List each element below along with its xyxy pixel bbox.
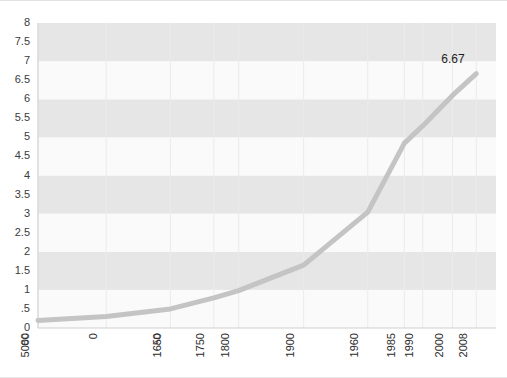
x-tick-label: 1985 — [386, 333, 398, 357]
y-tick-label: 6.5 — [0, 74, 30, 85]
chart-frame: 87.576.565.554.543.532.521.51.50 5000BC0… — [0, 0, 507, 378]
y-tick-label: 0 — [0, 322, 30, 333]
x-tick-label-era: BC — [20, 333, 32, 346]
x-tick-label: 1990 — [404, 333, 416, 357]
y-tick-label: 3 — [0, 208, 30, 219]
y-tick-label: 2.5 — [0, 227, 30, 238]
x-tick-label: 2000 — [434, 333, 446, 357]
y-tick-label: 7.5 — [0, 36, 30, 47]
y-tick-label: 5 — [0, 131, 30, 142]
y-tick-label: 3.5 — [0, 189, 30, 200]
x-tick-label: 1750 — [195, 333, 207, 357]
y-tick-label: 6 — [0, 93, 30, 104]
population-line-chart — [0, 1, 507, 378]
x-tick-label: 1900 — [285, 333, 297, 357]
y-tick-label: 4.5 — [0, 150, 30, 161]
y-tick-label: 8 — [0, 17, 30, 28]
x-tick-label: 1800 — [220, 333, 232, 357]
y-tick-label: 7 — [0, 55, 30, 66]
data-point-label: 6.67 — [441, 52, 464, 66]
y-tick-label: 1 — [0, 284, 30, 295]
y-tick-label: 4 — [0, 170, 30, 181]
x-tick-label: 0 — [88, 333, 100, 339]
y-tick-label: .5 — [0, 303, 30, 314]
x-tick-label: 1960 — [349, 333, 361, 357]
y-tick-label: 1.5 — [0, 265, 30, 276]
y-tick-label: 2 — [0, 246, 30, 257]
x-tick-label: 2008 — [458, 333, 470, 357]
x-tick-label-era: AD — [152, 333, 164, 346]
y-tick-label: 5.5 — [0, 112, 30, 123]
